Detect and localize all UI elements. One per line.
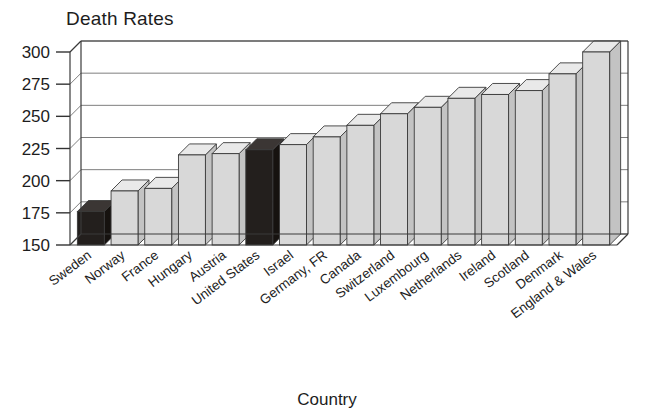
bar — [178, 144, 216, 245]
bar-front-face — [448, 98, 475, 245]
bar-front-face — [414, 107, 441, 245]
bar — [347, 114, 385, 245]
bar — [111, 180, 149, 245]
y-axis-tick-label: 250 — [22, 107, 50, 126]
bar-side-face — [610, 41, 621, 245]
bar — [515, 80, 553, 245]
bar — [448, 87, 486, 245]
bar — [279, 134, 317, 245]
y-axis-tick-label: 200 — [22, 172, 50, 191]
bar — [414, 96, 452, 245]
bar-front-face — [347, 125, 374, 245]
bar — [381, 103, 419, 245]
gridline-depth-connector — [70, 138, 81, 149]
bar-front-face — [111, 191, 138, 245]
bar-chart-plot: 150175200225250275300 SwedenNorwayFrance… — [0, 0, 654, 416]
gridline-depth-connector — [70, 170, 81, 181]
x-axis-title: Country — [0, 390, 654, 410]
bar-front-face — [313, 137, 340, 245]
bar — [482, 83, 520, 245]
bar — [246, 139, 284, 245]
bar-front-face — [381, 114, 408, 245]
bar-front-face — [145, 188, 172, 245]
bar-front-face — [279, 145, 306, 245]
y-axis-tick-label: 150 — [22, 236, 50, 255]
bar — [313, 126, 351, 245]
bar — [145, 177, 183, 245]
y-axis-tick-label: 225 — [22, 140, 50, 159]
bar-front-face — [583, 52, 610, 245]
bar-front-face — [482, 94, 509, 245]
gridline-depth-connector — [70, 73, 81, 84]
y-axis-tick-label: 175 — [22, 204, 50, 223]
bar-front-face — [246, 150, 273, 245]
y-axis-tick-label: 275 — [22, 75, 50, 94]
x-axis-labels-group: SwedenNorwayFranceHungaryAustriaUnited S… — [46, 247, 600, 321]
bar — [549, 63, 587, 245]
bar-front-face — [212, 154, 239, 245]
y-axis-tick-label: 300 — [22, 43, 50, 62]
bar-front-face — [549, 74, 576, 245]
gridline-depth-connector — [70, 105, 81, 116]
bar — [77, 201, 115, 245]
axis-frame-line — [70, 41, 81, 52]
bar-front-face — [178, 155, 205, 245]
bar-front-face — [515, 91, 542, 245]
bars-group — [77, 41, 620, 245]
bar — [212, 143, 250, 245]
bar — [583, 41, 621, 245]
y-axis-ticks-group: 150175200225250275300 — [22, 43, 70, 255]
chart-container: Death Rates 150175200225250275300 Sweden… — [0, 0, 654, 416]
